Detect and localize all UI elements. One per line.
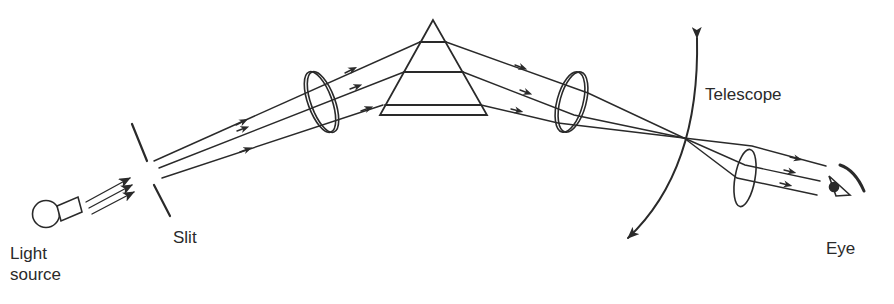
light-source-label: Light source	[10, 243, 61, 285]
source-beam-arrows	[86, 178, 134, 214]
light-source-label-line1: Light	[10, 243, 61, 264]
collimated-rays	[154, 42, 420, 178]
telescope-label: Telescope	[705, 84, 782, 105]
eye-icon	[829, 165, 864, 196]
light-source-label-line2: source	[10, 264, 61, 285]
prism-icon	[380, 20, 487, 115]
dispersed-rays	[446, 42, 684, 138]
slit-label: Slit	[173, 227, 197, 248]
eyepiece-lens-icon	[730, 148, 760, 209]
objective-lens-icon	[549, 69, 593, 136]
eyepiece-rays	[684, 138, 826, 195]
eye-label: Eye	[826, 238, 855, 259]
spectrometer-diagram	[0, 0, 894, 304]
slit-icon	[132, 124, 170, 216]
light-source-icon	[33, 197, 83, 228]
